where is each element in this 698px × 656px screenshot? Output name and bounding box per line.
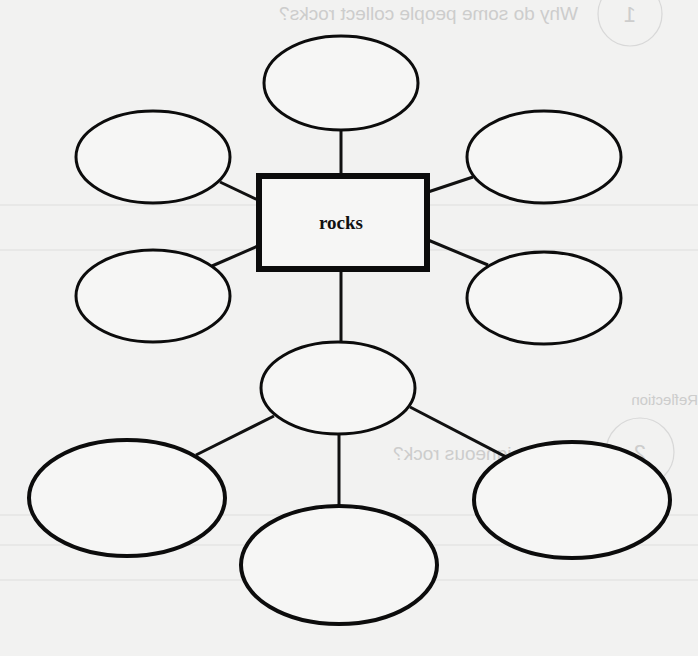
bubble-upper-right[interactable]	[467, 111, 621, 203]
bubble-lower-left[interactable]	[76, 250, 230, 342]
showthrough-section-label: Reflection	[631, 391, 698, 408]
ellipse-middle[interactable]	[261, 342, 415, 434]
ellipse-upper-right[interactable]	[467, 111, 621, 203]
ellipse-top[interactable]	[264, 36, 418, 130]
connector-lower-right	[428, 240, 488, 265]
concept-web-diagram: 1 Why do some people collect rocks? Refl…	[0, 0, 698, 656]
ellipse-upper-left[interactable]	[76, 111, 230, 203]
connector-upper-left	[220, 182, 258, 200]
bubble-bottom-right[interactable]	[474, 442, 670, 558]
bubble-upper-left[interactable]	[76, 111, 230, 203]
bubble-bottom-center[interactable]	[241, 506, 437, 624]
worksheet-page: 1 Why do some people collect rocks? Refl…	[0, 0, 698, 656]
ellipse-lower-right[interactable]	[467, 252, 621, 344]
bubble-middle[interactable]	[261, 342, 415, 434]
center-label: rocks	[319, 212, 363, 233]
connector-lower-left	[212, 246, 258, 266]
ellipse-lower-left[interactable]	[76, 250, 230, 342]
connector-bottom-left	[196, 416, 274, 455]
ellipse-bottom-right[interactable]	[474, 442, 670, 558]
showthrough-question-1: Why do some people collect rocks?	[279, 3, 578, 24]
ellipse-bottom-left[interactable]	[29, 440, 225, 556]
bubble-bottom-left[interactable]	[29, 440, 225, 556]
bubble-lower-right[interactable]	[467, 252, 621, 344]
showthrough-number-1: 1	[624, 2, 636, 27]
ellipse-bottom-center[interactable]	[241, 506, 437, 624]
center-node[interactable]: rocks	[259, 176, 427, 269]
bubble-top[interactable]	[264, 36, 418, 130]
connector-upper-right	[428, 177, 473, 192]
